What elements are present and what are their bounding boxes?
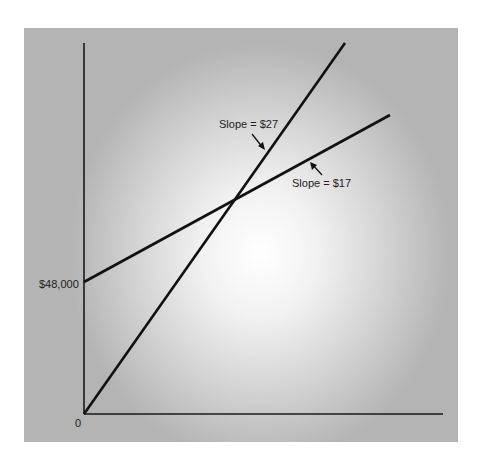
line-slope-27 [84, 43, 345, 414]
origin-label: 0 [75, 418, 81, 429]
arrow-slope-17 [310, 162, 322, 175]
slope-17-label: Slope = $17 [292, 178, 351, 189]
chart-plot [0, 0, 482, 465]
line-slope-17 [84, 115, 390, 282]
y-intercept-label: $48,000 [39, 279, 79, 290]
slope-27-label: Slope = $27 [219, 119, 278, 130]
arrow-slope-27 [252, 134, 265, 150]
